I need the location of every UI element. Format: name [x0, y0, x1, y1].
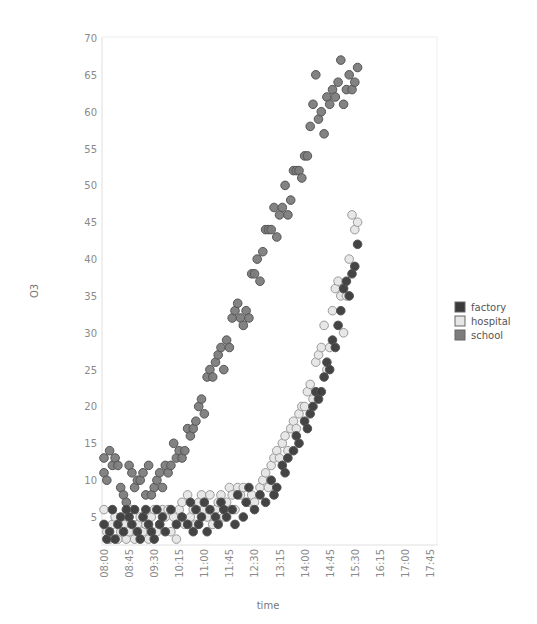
- data-point: [178, 513, 187, 522]
- data-point: [245, 483, 254, 492]
- data-point: [351, 78, 360, 87]
- data-point: [303, 424, 312, 433]
- data-point: [181, 446, 190, 455]
- data-point: [286, 196, 295, 205]
- data-point: [309, 100, 318, 109]
- data-point: [278, 203, 287, 212]
- data-point: [197, 513, 206, 522]
- x-axis-label: time: [257, 600, 280, 611]
- data-point: [345, 255, 354, 264]
- data-point: [128, 469, 137, 478]
- data-point: [217, 343, 226, 352]
- y-tick-label: 70: [84, 33, 97, 44]
- data-point: [203, 527, 212, 536]
- data-point: [339, 329, 348, 338]
- data-point: [334, 78, 343, 87]
- legend-label-hospital: hospital: [471, 316, 511, 327]
- data-point: [331, 93, 340, 102]
- data-point: [144, 461, 153, 470]
- data-point: [256, 491, 265, 500]
- legend-swatch-factory: [455, 302, 465, 312]
- data-point: [267, 225, 276, 234]
- data-point: [270, 203, 279, 212]
- data-point: [128, 520, 137, 529]
- legend-swatch-hospital: [455, 316, 465, 326]
- data-point: [273, 483, 282, 492]
- x-tick-label: 12:30: [249, 549, 260, 578]
- data-point: [158, 483, 167, 492]
- data-point: [208, 373, 217, 382]
- data-point: [267, 476, 276, 485]
- data-point: [250, 270, 259, 279]
- data-point: [337, 306, 346, 315]
- x-tick-label: 16:15: [375, 549, 386, 578]
- data-point: [186, 498, 195, 507]
- data-point: [295, 439, 304, 448]
- data-point: [228, 505, 237, 514]
- data-point: [334, 321, 343, 330]
- data-point: [245, 314, 254, 323]
- data-point: [172, 535, 181, 544]
- y-tick-label: 20: [84, 401, 97, 412]
- data-point: [261, 498, 270, 507]
- data-point: [334, 277, 343, 286]
- data-point: [158, 513, 167, 522]
- data-point: [337, 56, 346, 65]
- y-tick-label: 35: [84, 291, 97, 302]
- data-point: [200, 410, 209, 419]
- data-point: [239, 321, 248, 330]
- data-point: [298, 174, 307, 183]
- x-tick-label: 08:00: [99, 549, 110, 578]
- data-point: [100, 454, 109, 463]
- y-tick-label: 40: [84, 254, 97, 265]
- data-point: [250, 505, 259, 514]
- legend-label-factory: factory: [471, 302, 506, 313]
- data-point: [155, 469, 164, 478]
- data-point: [214, 520, 223, 529]
- data-point: [303, 152, 312, 161]
- data-point: [197, 395, 206, 404]
- data-point: [153, 505, 162, 514]
- data-point: [325, 100, 334, 109]
- data-point: [317, 107, 326, 116]
- data-point: [300, 402, 309, 411]
- data-point: [312, 71, 321, 80]
- data-point: [206, 505, 215, 514]
- legend-label-school: school: [471, 330, 503, 341]
- data-point: [105, 446, 114, 455]
- data-point: [353, 240, 362, 249]
- y-tick-label: 55: [84, 144, 97, 155]
- y-tick-label: 10: [84, 475, 97, 486]
- data-point: [320, 130, 329, 139]
- data-point: [225, 343, 234, 352]
- x-tick-label: 17:00: [400, 549, 411, 578]
- y-tick-label: 65: [84, 70, 97, 81]
- data-point: [242, 498, 251, 507]
- data-point: [167, 461, 176, 470]
- data-point: [192, 417, 201, 426]
- y-tick-label: 45: [84, 217, 97, 228]
- data-point: [306, 380, 315, 389]
- x-axis-ticks: 08:0008:4509:3010:1511:0011:4512:3013:15…: [99, 549, 436, 578]
- data-point: [342, 277, 351, 286]
- y-axis-ticks: 510152025303540455055606570: [84, 33, 97, 523]
- x-tick-label: 14:45: [325, 549, 336, 578]
- x-tick-label: 11:00: [199, 549, 210, 578]
- y-tick-label: 30: [84, 328, 97, 339]
- data-point: [119, 527, 128, 536]
- data-point: [306, 122, 315, 131]
- data-point: [281, 432, 290, 441]
- y-tick-label: 50: [84, 180, 97, 191]
- data-point: [317, 343, 326, 352]
- legend-swatch-school: [455, 330, 465, 340]
- data-point: [284, 211, 293, 220]
- data-point: [100, 520, 109, 529]
- data-point: [317, 387, 326, 396]
- data-point: [169, 439, 178, 448]
- data-point: [167, 505, 176, 514]
- y-tick-label: 25: [84, 365, 97, 376]
- data-point: [108, 505, 117, 514]
- data-point: [339, 100, 348, 109]
- data-point: [142, 505, 151, 514]
- data-point: [353, 218, 362, 227]
